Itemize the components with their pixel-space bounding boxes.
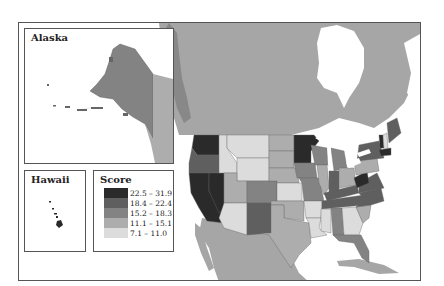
- legend-swatch: [104, 208, 128, 218]
- legend-title: Score: [100, 174, 132, 185]
- pribilof-island: [47, 84, 49, 86]
- state-north-dakota: [269, 135, 294, 151]
- legend-swatch: [104, 228, 128, 238]
- state-mississippi: [321, 209, 331, 233]
- state-wyoming: [237, 158, 269, 181]
- legend-label: 18.4 – 22.4: [130, 199, 172, 208]
- state-maine: [387, 118, 401, 143]
- hawaii-island-big: [56, 220, 63, 228]
- hawaii-map: [25, 171, 85, 251]
- state-iowa: [294, 163, 317, 178]
- hawaii-island-oahu: [52, 208, 54, 210]
- state-florida: [333, 235, 369, 263]
- state-alaska: [90, 44, 153, 139]
- aleutian-islands: [55, 104, 97, 109]
- legend: Score 22.5 – 31.9 18.4 – 22.4 15.2 – 18.…: [93, 170, 174, 252]
- state-arkansas: [304, 201, 322, 218]
- aleutian-island: [53, 105, 56, 107]
- legend-item: 22.5 – 31.9: [104, 188, 172, 198]
- hawaii-island-maui: [56, 216, 58, 218]
- aleutian-island: [77, 109, 87, 111]
- st-lawrence-island: [109, 57, 113, 62]
- legend-item: 18.4 – 22.4: [104, 198, 172, 208]
- alaska-map: [25, 29, 173, 163]
- alaska-inset: Alaska: [24, 28, 174, 164]
- hawaii-inset: Hawaii: [24, 170, 86, 252]
- legend-label: 15.2 – 18.3: [130, 209, 172, 218]
- hawaii-island-molokai: [54, 213, 57, 215]
- legend-label: 22.5 – 31.9: [130, 189, 172, 198]
- state-nebraska: [269, 168, 299, 183]
- legend-swatch: [104, 218, 128, 228]
- kodiak-island: [123, 113, 128, 116]
- legend-item: 11.1 – 15.1: [104, 218, 172, 228]
- state-michigan: [331, 148, 347, 171]
- aleutian-island: [65, 106, 70, 108]
- legend-label: 11.1 – 15.1: [130, 219, 172, 228]
- legend-swatch: [104, 198, 128, 208]
- canada-region: [159, 23, 421, 138]
- state-washington: [192, 135, 219, 155]
- state-new-mexico: [247, 203, 271, 235]
- legend-item: 7.1 – 11.0: [104, 228, 167, 238]
- aleutian-island: [91, 107, 103, 109]
- state-colorado: [247, 181, 277, 203]
- state-alabama: [331, 208, 344, 235]
- state-new-hampshire: [383, 133, 388, 150]
- state-montana: [227, 135, 269, 158]
- legend-label: 7.1 – 11.0: [130, 229, 167, 238]
- state-kansas: [277, 183, 302, 201]
- state-wisconsin: [311, 145, 329, 165]
- state-south-dakota: [269, 151, 294, 168]
- map-frame: Alaska Hawaii Score 22.5 – 31: [18, 22, 421, 281]
- hawaii-island-kauai: [49, 201, 51, 203]
- legend-swatch: [104, 188, 128, 198]
- legend-item: 15.2 – 18.3: [104, 208, 172, 218]
- state-ohio: [339, 168, 356, 188]
